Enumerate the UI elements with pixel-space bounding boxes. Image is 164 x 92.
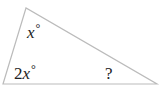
angle-label-top: x° bbox=[27, 22, 40, 41]
angle-label-bottom-right: ? bbox=[105, 65, 113, 82]
angle-label-bottom-left: 2x° bbox=[14, 63, 36, 82]
triangle-diagram: x° 2x° ? bbox=[0, 0, 164, 92]
